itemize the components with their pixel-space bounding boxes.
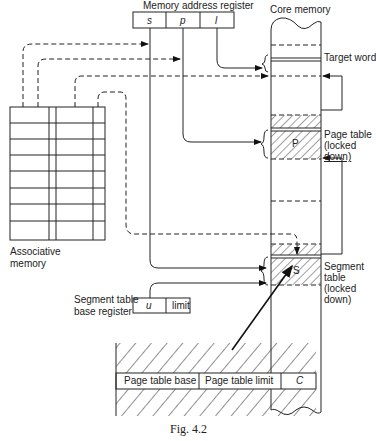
page-table-label-1: Page table	[324, 129, 372, 140]
entry-page-table-base: Page table base	[124, 375, 196, 386]
segment-table-marker: S	[293, 265, 300, 276]
associative-memory-label-2: memory	[10, 258, 46, 269]
core-memory-title: Core memory	[270, 4, 331, 15]
segment-table-label-2: table	[324, 272, 346, 283]
stbr-label-2: base register	[74, 306, 132, 317]
mar-field-l: l	[215, 15, 217, 26]
page-table-label-2: (locked	[324, 140, 356, 151]
mar-field-s: s	[147, 15, 152, 26]
stbr-label-1: Segment table	[74, 294, 139, 305]
entry-page-table-limit: Page table limit	[205, 375, 273, 386]
segment-table-label-1: Segment	[324, 261, 364, 272]
stbr-field-limit: limit	[172, 300, 190, 311]
associative-memory-label-1: Associative	[10, 246, 61, 257]
entry-c-bit: C	[296, 375, 303, 386]
page-table-label-3: down)	[324, 151, 351, 162]
page-table-marker: P	[292, 138, 299, 149]
associative-memory-table	[10, 107, 105, 240]
target-word-label: Target word	[324, 52, 376, 63]
segment-table-label-4: down)	[324, 294, 351, 305]
mar-title: Memory address register	[143, 0, 254, 11]
stbr-field-u: u	[146, 300, 152, 311]
mar-field-p: p	[180, 15, 186, 26]
figure-caption: Fig. 4.2	[170, 424, 207, 435]
segment-table-label-3: (locked	[324, 283, 356, 294]
